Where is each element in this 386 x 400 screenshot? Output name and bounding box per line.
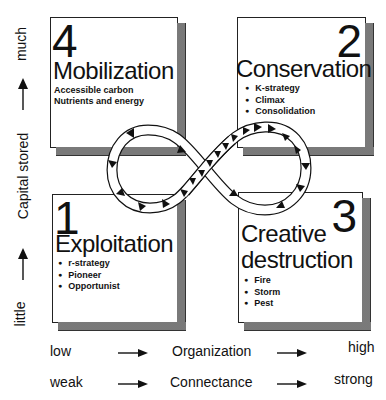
right-arrow-icon [277, 379, 307, 389]
adaptive-cycle-diagram: much Capital stored little 4 Mobilizatio… [0, 0, 386, 400]
x-axis-high-label: strong [334, 371, 373, 387]
right-arrow-icon [277, 348, 307, 358]
x-axis-low-label: weak [50, 374, 83, 390]
right-arrow-icon [118, 379, 148, 389]
x-axis-connectance: weak Connectance strong [0, 374, 386, 394]
x-axis-low-label: low [50, 343, 71, 359]
right-arrow-icon [118, 348, 148, 358]
x-axis-label: Organization [172, 343, 251, 359]
x-axis-label: Connectance [170, 374, 253, 390]
x-axis-organization: low Organization high [0, 343, 386, 363]
x-axis-high-label: high [348, 339, 374, 355]
figure-eight-loop [0, 0, 386, 400]
